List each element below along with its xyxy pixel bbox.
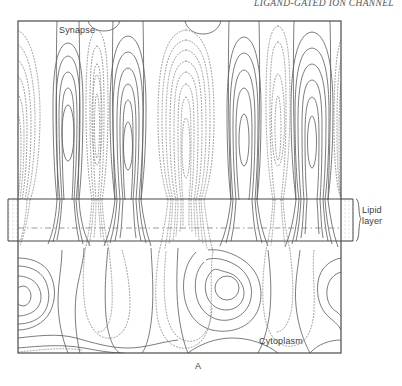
lipid-band-left-overhang (8, 199, 18, 241)
label-lipid-line1: Lipid (362, 205, 382, 216)
figure-root: LIGAND-GATED ION CHANNEL (0, 0, 402, 386)
contour-plot (0, 0, 402, 386)
label-synapse: Synapse (59, 25, 95, 35)
lipid-layer-brace (356, 199, 361, 241)
lipid-band-right-overhang (341, 199, 353, 241)
label-lipid-line2: layer (362, 216, 382, 227)
label-lipid-layer: Lipid layer (362, 205, 382, 227)
label-cytoplasm: Cytoplasm (259, 336, 303, 346)
panel-label-a: A (195, 361, 201, 371)
